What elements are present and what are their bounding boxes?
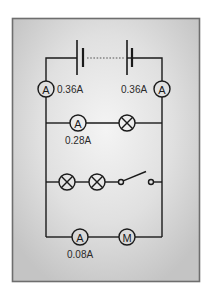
ammeter-branch-3-symbol: A — [76, 232, 84, 244]
circuit-diagram: A 0.36A A 0.36A A 0.28A — [0, 0, 210, 289]
ammeter-branch-1-reading: 0.28A — [65, 135, 91, 146]
ammeter-right-reading: 0.36A — [121, 84, 147, 95]
diagram-panel — [13, 19, 200, 282]
ammeter-right-symbol: A — [158, 84, 166, 96]
ammeter-left-symbol: A — [42, 84, 50, 96]
motor-symbol: M — [122, 232, 131, 244]
ammeter-branch-3-reading: 0.08A — [67, 249, 93, 260]
ammeter-left-reading: 0.36A — [57, 84, 83, 95]
ammeter-branch-1-symbol: A — [74, 118, 82, 130]
